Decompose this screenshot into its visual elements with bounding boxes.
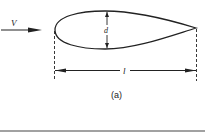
figure-caption: (a) xyxy=(111,90,122,100)
airfoil-body xyxy=(55,11,196,49)
airfoil-diagram: V d l (a) xyxy=(0,0,205,132)
velocity-arrow xyxy=(1,28,42,33)
velocity-label: V xyxy=(11,18,18,28)
